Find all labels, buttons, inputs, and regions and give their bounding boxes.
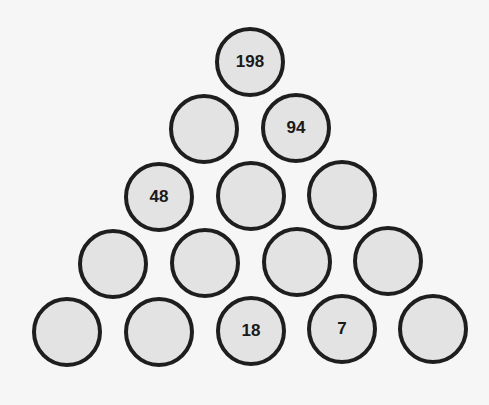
pyramid-cell-r4-c1[interactable] <box>78 229 148 299</box>
pyramid-cell-r5-c3[interactable]: 18 <box>216 296 286 366</box>
pyramid-cell-r3-c3[interactable] <box>307 160 377 230</box>
pyramid-cell-r3-c1[interactable]: 48 <box>124 162 194 232</box>
pyramid-cell-r4-c4[interactable] <box>353 226 423 296</box>
pyramid-cell-r2-c2[interactable]: 94 <box>261 93 331 163</box>
pyramid-cell-r1-c1[interactable]: 198 <box>215 27 285 97</box>
number-pyramid: 198 94 48 18 7 <box>0 0 489 405</box>
pyramid-cell-r5-c5[interactable] <box>398 294 468 364</box>
pyramid-cell-r5-c1[interactable] <box>32 297 102 367</box>
pyramid-cell-r5-c4[interactable]: 7 <box>307 294 377 364</box>
pyramid-cell-r4-c3[interactable] <box>262 227 332 297</box>
pyramid-cell-r4-c2[interactable] <box>170 228 240 298</box>
pyramid-cell-r3-c2[interactable] <box>216 161 286 231</box>
pyramid-cell-r2-c1[interactable] <box>169 94 239 164</box>
pyramid-cell-r5-c2[interactable] <box>124 297 194 367</box>
